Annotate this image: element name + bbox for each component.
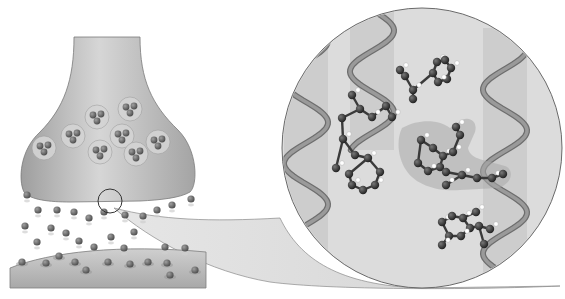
- neurotransmitter: [75, 237, 82, 244]
- neurotransmitter: [121, 211, 128, 218]
- neurotransmitter: [153, 206, 160, 213]
- neurotransmitter: [168, 201, 175, 208]
- synapse-figure: [0, 0, 565, 299]
- neurotransmitter: [33, 238, 40, 245]
- vesicle: [146, 130, 170, 154]
- neurotransmitter: [120, 244, 127, 251]
- synapse-diagram: [0, 0, 565, 299]
- receptor-molecule: [82, 266, 89, 273]
- receptor-molecule: [55, 252, 62, 259]
- neurotransmitter: [161, 243, 168, 250]
- vesicle: [88, 140, 112, 164]
- vesicle: [61, 124, 85, 148]
- neurotransmitter: [187, 195, 194, 202]
- receptor-molecule: [71, 258, 78, 265]
- vesicle: [124, 142, 148, 166]
- neurotransmitter: [85, 214, 92, 221]
- receptor-molecule: [104, 258, 111, 265]
- vesicle: [32, 136, 56, 160]
- alpha-helix: [350, 10, 394, 150]
- receptor-molecule: [191, 266, 198, 273]
- receptor-molecule: [166, 271, 173, 278]
- neurotransmitter: [23, 191, 30, 198]
- neurotransmitter: [130, 228, 137, 235]
- receptor-molecule: [126, 260, 133, 267]
- receptor-molecule: [144, 258, 151, 265]
- receptor-molecule: [163, 259, 170, 266]
- receptor-molecule: [42, 259, 49, 266]
- vesicle: [118, 97, 142, 121]
- neurotransmitter: [34, 206, 41, 213]
- neurotransmitter: [21, 222, 28, 229]
- neurotransmitter: [139, 212, 146, 219]
- neurotransmitter: [47, 224, 54, 231]
- vesicle: [85, 105, 109, 129]
- neurotransmitter: [53, 206, 60, 213]
- neurotransmitter: [90, 243, 97, 250]
- receptor-molecule: [18, 258, 25, 265]
- neurotransmitter: [62, 229, 69, 236]
- neurotransmitter: [70, 208, 77, 215]
- postsynaptic-membrane: [10, 249, 206, 288]
- neurotransmitter: [107, 233, 114, 240]
- neurotransmitter: [181, 244, 188, 251]
